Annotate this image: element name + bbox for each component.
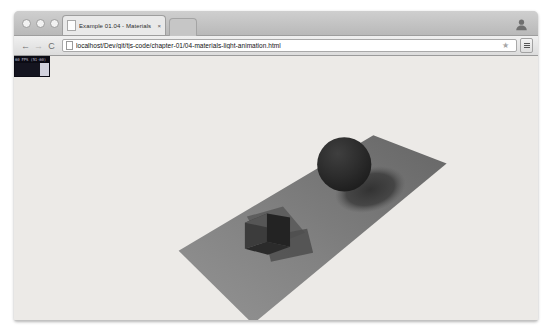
close-window-button[interactable] <box>22 19 31 28</box>
stats-fps-panel[interactable]: 60 FPS (51-60) <box>14 56 50 77</box>
browser-menu-icon[interactable] <box>520 38 533 53</box>
page-viewport: 60 FPS (51-60) <box>14 56 538 320</box>
window-controls <box>22 19 59 28</box>
stats-graph-bar <box>40 63 49 76</box>
stats-fps-readout: 60 FPS (51-60) <box>14 56 50 62</box>
tab-favicon-icon <box>67 20 76 31</box>
sphere-mesh <box>317 137 371 191</box>
tab-close-icon[interactable]: × <box>155 23 161 29</box>
menu-line <box>524 47 530 48</box>
tab-title: Example 01.04 - Materials <box>79 23 155 29</box>
address-bar[interactable]: localhost/Dev/git/tjs-code/chapter-01/04… <box>62 39 517 52</box>
reload-button-icon[interactable]: C <box>45 39 58 53</box>
window-bottom-edge <box>14 320 538 321</box>
bookmark-star-icon[interactable]: ★ <box>502 41 509 50</box>
back-button-icon[interactable]: ← <box>19 39 32 53</box>
maximize-window-button[interactable] <box>50 19 59 28</box>
new-tab-button[interactable] <box>169 18 197 36</box>
webgl-canvas[interactable] <box>14 56 538 320</box>
menu-line <box>524 43 530 44</box>
tab-strip: Example 01.04 - Materials × <box>14 11 538 36</box>
forward-button-icon[interactable]: → <box>32 39 45 53</box>
browser-tab[interactable]: Example 01.04 - Materials × <box>62 15 166 35</box>
url-text: localhost/Dev/git/tjs-code/chapter-01/04… <box>76 42 502 49</box>
browser-window: Example 01.04 - Materials × ← → C localh… <box>14 11 538 321</box>
screenshot-root: Example 01.04 - Materials × ← → C localh… <box>0 0 551 336</box>
page-info-icon <box>66 41 73 50</box>
minimize-window-button[interactable] <box>36 19 45 28</box>
cube-face-front <box>267 214 290 247</box>
browser-toolbar: ← → C localhost/Dev/git/tjs-code/chapter… <box>14 36 538 56</box>
stats-fps-graph <box>15 63 49 76</box>
profile-icon[interactable] <box>512 15 530 33</box>
menu-line <box>524 45 530 46</box>
